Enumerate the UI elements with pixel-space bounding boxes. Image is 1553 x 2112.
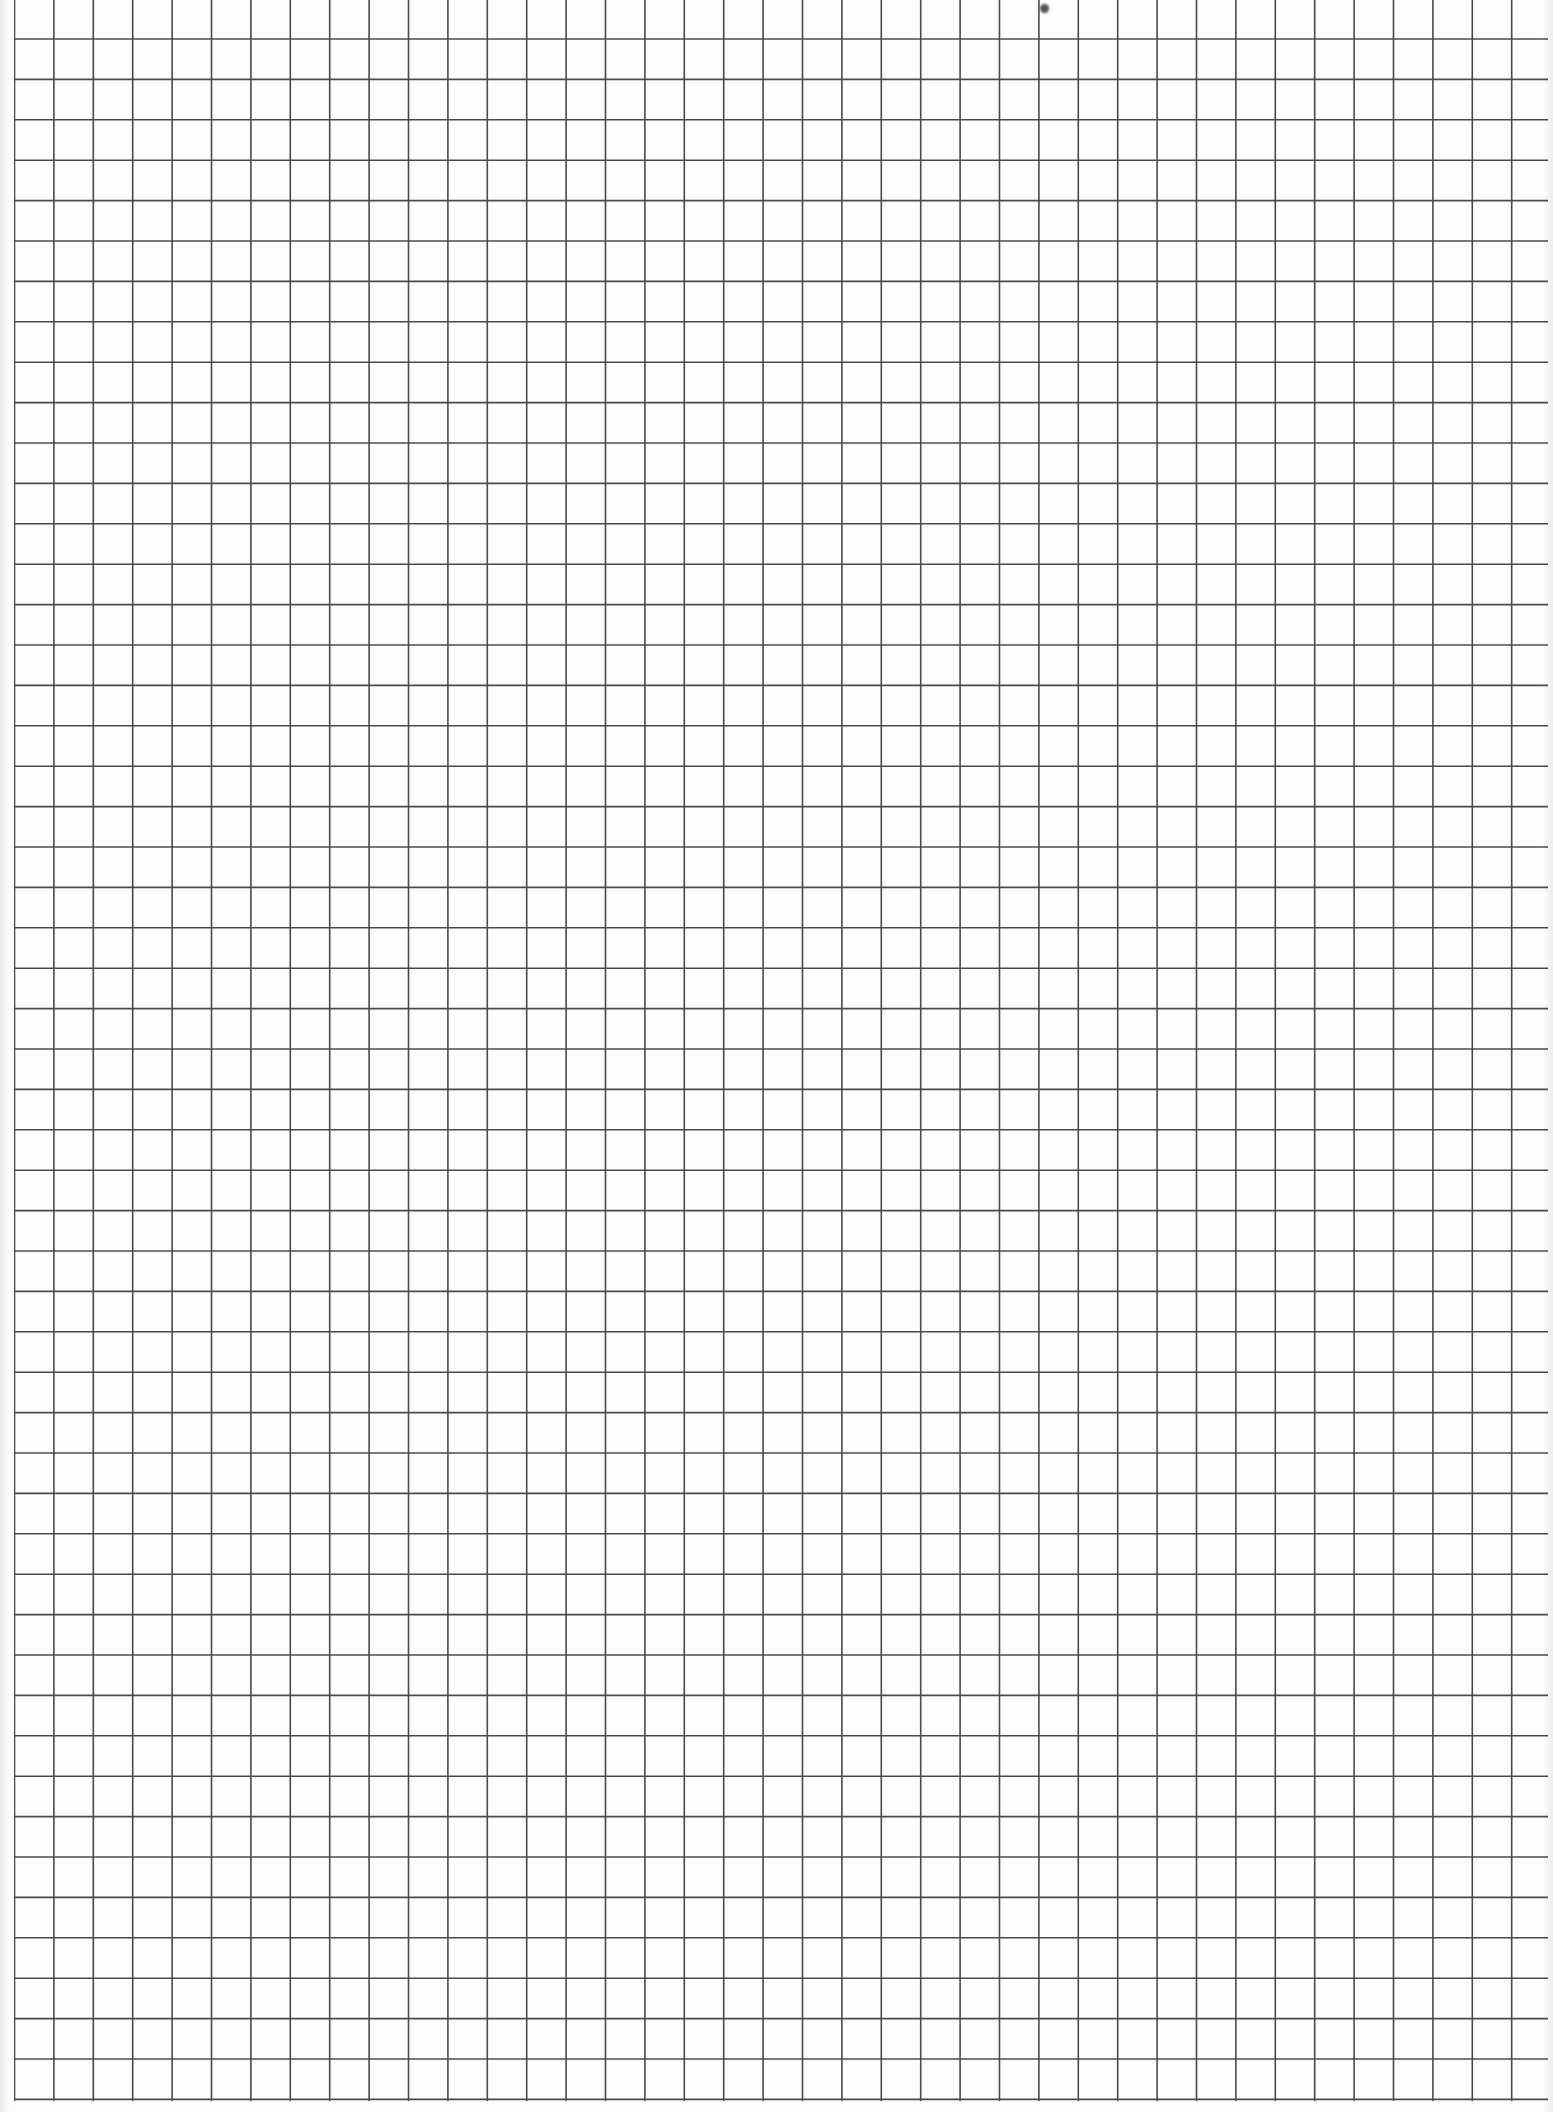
grid-lines bbox=[14, 0, 1548, 2101]
left-edge-shadow bbox=[0, 0, 10, 2112]
ink-smudge-mark bbox=[1040, 4, 1049, 13]
graph-paper-sheet bbox=[0, 0, 1553, 2112]
square-grid bbox=[14, 0, 1548, 2101]
